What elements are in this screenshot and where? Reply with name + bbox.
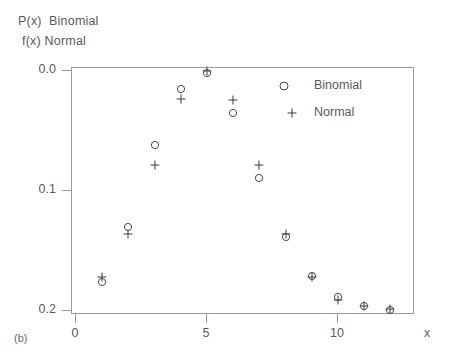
x-axis-label: x [424, 326, 430, 340]
data-point-binomial-x6 [226, 106, 240, 120]
legend-item-binomial: Binomial [276, 78, 406, 105]
data-point-binomial-x12 [383, 303, 397, 317]
data-point-normal-x4 [174, 92, 188, 106]
y-tick-mark [62, 190, 71, 191]
binomial-normal-scatter-figure: P(x) Binomial f(x) Normal 0.20.10.0 0510… [0, 0, 451, 355]
y-tick-label: 0.0 [14, 62, 56, 76]
data-point-normal-x9 [305, 270, 319, 284]
data-point-binomial-x11 [357, 299, 371, 313]
y-tick-mark [62, 310, 71, 311]
data-point-binomial-x10 [331, 290, 345, 304]
legend-label-binomial: Binomial [314, 78, 362, 92]
y-axis-title-binomial: P(x) Binomial [18, 14, 99, 28]
x-tick-mark [75, 314, 76, 323]
legend: Binomial Normal [276, 78, 406, 132]
data-point-normal-x2 [121, 227, 135, 241]
data-point-binomial-x7 [252, 171, 266, 185]
data-point-binomial-x4 [174, 82, 188, 96]
y-tick-label: 0.2 [14, 302, 56, 316]
figure-caption: (b) [14, 332, 27, 344]
data-point-normal-x7 [252, 158, 266, 172]
y-axis-title-normal: f(x) Normal [22, 34, 86, 48]
plus-marker-icon [284, 105, 300, 121]
legend-item-normal: Normal [276, 105, 406, 132]
data-point-normal-x1 [95, 270, 109, 284]
data-point-normal-x6 [226, 93, 240, 107]
data-point-normal-x11 [357, 299, 371, 313]
x-tick-label: 0 [55, 326, 95, 340]
data-point-normal-x3 [148, 158, 162, 172]
x-tick-mark [206, 314, 207, 323]
y-tick-mark [62, 70, 71, 71]
y-tick-label: 0.1 [14, 182, 56, 196]
data-point-normal-x12 [383, 302, 397, 316]
x-tick-label: 5 [186, 326, 226, 340]
x-tick-mark [337, 314, 338, 323]
legend-label-normal: Normal [314, 105, 354, 119]
x-tick-label: 10 [317, 326, 357, 340]
data-point-normal-x10 [331, 293, 345, 307]
data-point-normal-x8 [279, 227, 293, 241]
data-point-binomial-x8 [279, 230, 293, 244]
data-point-binomial-x1 [95, 275, 109, 289]
data-point-binomial-x5 [200, 66, 214, 80]
data-point-binomial-x9 [305, 269, 319, 283]
circle-marker-icon [276, 78, 292, 94]
data-point-binomial-x2 [121, 220, 135, 234]
data-point-binomial-x3 [148, 138, 162, 152]
data-point-normal-x5 [200, 64, 214, 78]
